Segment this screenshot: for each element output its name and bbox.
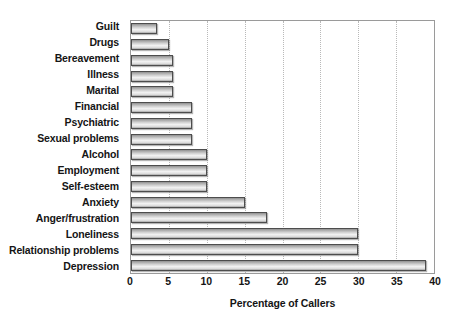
- bar: [131, 71, 173, 82]
- bar-row: [131, 84, 434, 100]
- bar-row: [131, 226, 434, 242]
- bar-row: [131, 147, 434, 163]
- x-tick-label: 5: [165, 276, 171, 287]
- bar-row: [131, 53, 434, 69]
- x-tick-label: 15: [239, 276, 251, 287]
- bar: [131, 39, 169, 50]
- x-tick-label: 25: [315, 276, 327, 287]
- category-axis-labels: GuiltDrugsBereavementIllnessMaritalFinan…: [0, 18, 124, 274]
- plot-area: [130, 20, 435, 274]
- bar-row: [131, 68, 434, 84]
- bar-row: [131, 257, 434, 273]
- bar-row: [131, 116, 434, 132]
- bar: [131, 149, 207, 160]
- bar-row: [131, 163, 434, 179]
- bar: [131, 165, 207, 176]
- category-label: Bereavement: [0, 50, 124, 66]
- bar-row: [131, 242, 434, 258]
- bar: [131, 197, 245, 208]
- category-label: Illness: [0, 66, 124, 82]
- category-label: Psychiatric: [0, 114, 124, 130]
- bar: [131, 134, 192, 145]
- bars-layer: [131, 21, 434, 273]
- bar-row: [131, 37, 434, 53]
- bar: [131, 181, 207, 192]
- bar: [131, 23, 157, 34]
- bar: [131, 244, 358, 255]
- bar-row: [131, 210, 434, 226]
- bar-row: [131, 100, 434, 116]
- category-label: Anger/frustration: [0, 210, 124, 226]
- category-label: Relationship problems: [0, 242, 124, 258]
- x-tick-label: 30: [353, 276, 365, 287]
- bar-row: [131, 179, 434, 195]
- bar: [131, 86, 173, 97]
- x-axis-title: Percentage of Callers: [130, 297, 435, 309]
- category-label: Drugs: [0, 34, 124, 50]
- x-tick-label: 20: [277, 276, 289, 287]
- x-axis-tick-labels: 0510152025303540: [130, 276, 435, 290]
- bar-row: [131, 21, 434, 37]
- category-label: Self-esteem: [0, 178, 124, 194]
- category-label: Anxiety: [0, 194, 124, 210]
- bar-chart: GuiltDrugsBereavementIllnessMaritalFinan…: [0, 0, 459, 321]
- category-label: Financial: [0, 98, 124, 114]
- category-label: Marital: [0, 82, 124, 98]
- bar: [131, 212, 267, 223]
- x-tick-label: 10: [200, 276, 212, 287]
- bar: [131, 118, 192, 129]
- category-label: Loneliness: [0, 226, 124, 242]
- bar: [131, 228, 358, 239]
- x-tick-label: 0: [127, 276, 133, 287]
- category-label: Guilt: [0, 18, 124, 34]
- x-tick-label: 40: [429, 276, 441, 287]
- category-label: Alcohol: [0, 146, 124, 162]
- category-label: Sexual problems: [0, 130, 124, 146]
- category-label: Depression: [0, 258, 124, 274]
- bar: [131, 260, 426, 271]
- bar: [131, 55, 173, 66]
- category-label: Employment: [0, 162, 124, 178]
- x-tick-label: 35: [391, 276, 403, 287]
- bar-row: [131, 194, 434, 210]
- bar-row: [131, 131, 434, 147]
- bar: [131, 102, 192, 113]
